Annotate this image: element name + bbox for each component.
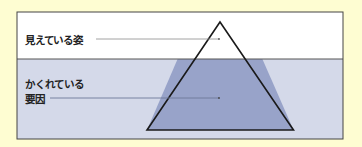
leader-dot-hidden xyxy=(218,97,220,99)
label-visible: 見えている姿 xyxy=(25,32,83,47)
label-hidden-line1: かくれている xyxy=(25,76,84,91)
leader-dot-visible xyxy=(218,38,220,40)
label-hidden-line2: 要因 xyxy=(25,91,45,106)
iceberg-diagram xyxy=(0,0,362,147)
